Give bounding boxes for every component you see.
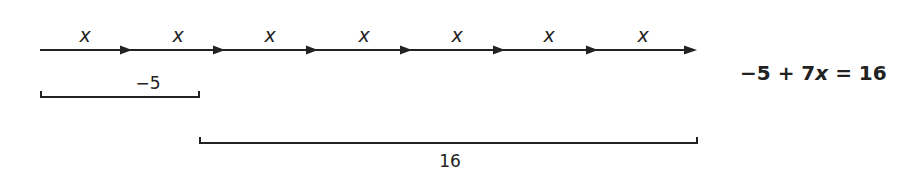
- segment-label-6: x: [543, 24, 554, 46]
- segment-label-5: x: [451, 24, 462, 46]
- segment-label-4: x: [358, 24, 369, 46]
- bracket-negative-five: [41, 91, 199, 97]
- equation-right: = 16: [828, 61, 887, 85]
- equation-left: −5 + 7: [740, 61, 815, 85]
- bracket-total-label: 16: [439, 151, 461, 171]
- bracket-negative-label: −5: [135, 73, 160, 93]
- equation: −5 + 7x = 16: [740, 61, 887, 85]
- segment-label-3: x: [264, 24, 275, 46]
- segment-label-1: x: [79, 24, 90, 46]
- segment-label-2: x: [172, 24, 183, 46]
- equation-variable: x: [815, 61, 828, 85]
- bracket-sixteen: [200, 137, 697, 143]
- segment-label-7: x: [637, 24, 648, 46]
- tape-diagram: x x x x x x x −5 16 −5 + 7x = 16: [0, 0, 912, 184]
